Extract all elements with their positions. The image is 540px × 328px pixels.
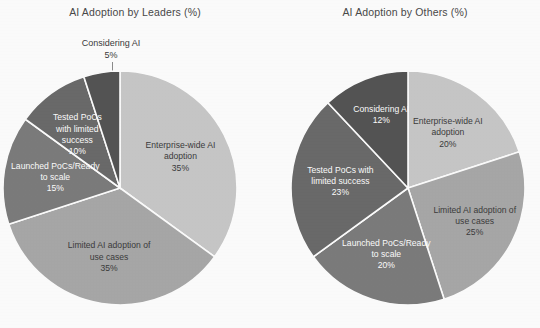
chart-title-others: AI Adoption by Others (%) bbox=[270, 6, 540, 18]
pie-chart-others: Enterprise-wide AI adoption 20%Limited A… bbox=[290, 70, 526, 306]
pie-callout-label-considering-ai-leaders: Considering AI 5% bbox=[56, 38, 166, 61]
pie-slices-others bbox=[290, 70, 526, 306]
figure-pie-chart-pair: AI Adoption by Leaders (%) Considering A… bbox=[0, 0, 540, 328]
pie-chart-leaders: Enterprise-wide AI adoption 35%Limited A… bbox=[2, 70, 238, 306]
chart-title-leaders: AI Adoption by Leaders (%) bbox=[0, 6, 270, 18]
pie-slices-leaders bbox=[2, 70, 238, 306]
